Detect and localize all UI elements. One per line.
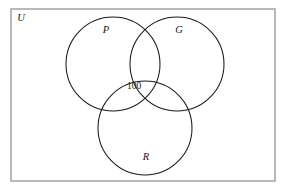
set-label-p: P: [102, 24, 110, 35]
set-label-r: R: [142, 151, 150, 162]
venn-diagram-canvas: U P G R 100: [0, 0, 291, 191]
venn-diagram-figure: U P G R 100: [0, 0, 291, 191]
region-value-p-g-r: 100: [127, 81, 142, 91]
set-circle-p: [66, 17, 160, 111]
universe-label: U: [17, 12, 26, 23]
set-label-g: G: [175, 24, 183, 35]
